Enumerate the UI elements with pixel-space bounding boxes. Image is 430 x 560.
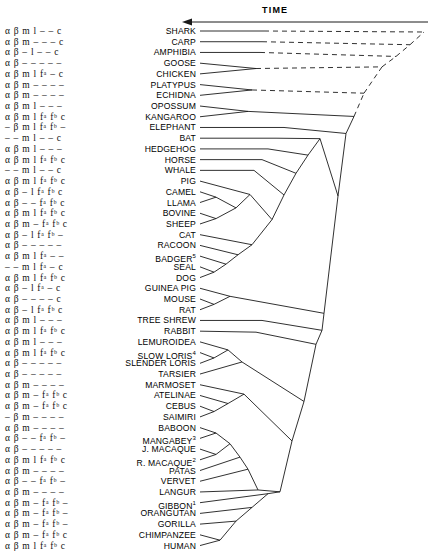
tree-branch	[238, 245, 252, 255]
tree-branch	[258, 490, 280, 492]
tree-branch	[200, 235, 252, 245]
tree-branch	[200, 245, 238, 254]
tree-branch	[200, 331, 256, 332]
tree-branch	[280, 441, 292, 492]
tree-branch	[240, 457, 248, 469]
tree-branch	[320, 139, 338, 196]
tree-branch	[200, 362, 242, 374]
tree-branch	[262, 160, 296, 174]
tree-branch	[216, 444, 230, 455]
tree-branch	[354, 93, 364, 116]
tree-branch	[214, 296, 230, 304]
tree-branch	[226, 255, 238, 264]
tree-branch	[200, 219, 216, 224]
tree-branch	[200, 507, 252, 513]
tree-branch	[200, 412, 214, 417]
tree-branch	[200, 490, 258, 492]
taxon-label-text: HUMAN	[164, 541, 196, 551]
tree-branch	[200, 85, 252, 90]
tree-branch	[200, 192, 216, 197]
tree-branch	[248, 469, 258, 490]
tree-branch	[200, 213, 216, 218]
tree-branch	[284, 173, 296, 195]
tree-branch	[200, 449, 216, 454]
tree-branch	[216, 433, 230, 444]
tree-branch	[268, 149, 308, 155]
tree-branch	[200, 535, 220, 540]
tree-branch	[338, 133, 346, 196]
tree-branch	[324, 196, 338, 313]
tree-branch	[200, 304, 214, 309]
tree-branch	[200, 540, 220, 545]
tree-branch	[200, 256, 226, 264]
tree-branch	[410, 32, 424, 45]
tree-branch	[346, 116, 354, 133]
taxon-label: HUMAN	[118, 538, 196, 554]
tree-branch	[214, 264, 226, 272]
tree-branch	[200, 342, 228, 350]
tree-branch	[200, 494, 268, 503]
tree-branch	[256, 332, 316, 344]
tree-branch	[200, 181, 250, 194]
tree-branch	[220, 521, 236, 540]
tree-branch	[200, 454, 216, 459]
tree-branch	[242, 362, 304, 402]
tree-branch	[200, 395, 228, 403]
tree-branch	[200, 69, 256, 74]
tree-branch	[200, 469, 248, 481]
tree-branch	[200, 267, 214, 272]
tree-branch	[214, 404, 228, 412]
tree-branch	[200, 353, 214, 358]
tree-branch	[200, 406, 214, 411]
tree-branch	[252, 90, 364, 93]
tree-branch	[236, 194, 250, 207]
tree-branch	[382, 56, 396, 66]
tree-branch	[364, 67, 382, 93]
tree-branch	[262, 320, 322, 330]
tree-branch	[272, 195, 284, 220]
tree-branch	[200, 385, 244, 394]
tree-branch	[200, 288, 230, 296]
tree-branch	[264, 31, 424, 32]
tree-branch	[396, 45, 410, 57]
tree-branch	[200, 272, 214, 277]
tree-branch	[262, 42, 410, 45]
tree-branch	[308, 139, 320, 155]
tree-branch	[322, 313, 324, 330]
tree-branch	[228, 394, 244, 403]
tree-branch	[254, 170, 284, 195]
tree-branch	[230, 296, 324, 313]
tree-branch	[316, 330, 322, 344]
tree-branch	[200, 90, 252, 95]
tree-branch	[200, 433, 216, 438]
tree-branch	[236, 507, 252, 521]
tree-branch	[260, 52, 396, 56]
tree-branch	[200, 521, 236, 524]
tree-branch	[284, 127, 346, 133]
tree-branch	[244, 394, 292, 441]
tree-branch	[304, 344, 316, 401]
tree-branch	[296, 155, 308, 173]
tree-branch	[230, 444, 240, 457]
gene-code-cell: α β m l fᵃ fᵇ c	[0, 538, 118, 554]
tree-branch	[200, 299, 214, 304]
tree-branch	[200, 457, 240, 470]
tree-branch	[228, 350, 242, 362]
tree-branch	[200, 106, 248, 111]
phylogenetic-tree-figure: TIME α β m l – – cα β m – – – cα β – l –…	[0, 0, 430, 560]
tree-branch	[200, 428, 216, 433]
tree-branch	[200, 111, 248, 116]
tree-branch	[252, 220, 272, 245]
tree-branch	[214, 350, 228, 358]
tree-branch	[216, 197, 236, 208]
tree-branch	[250, 194, 272, 219]
tree-branch	[248, 111, 354, 116]
tree-branch	[200, 63, 256, 68]
tree-branch	[292, 401, 304, 441]
tree-branch	[200, 197, 216, 202]
tree-branch	[216, 208, 236, 219]
tree-branch	[200, 358, 214, 363]
tree-branches	[196, 0, 430, 560]
tree-branch	[256, 67, 382, 69]
